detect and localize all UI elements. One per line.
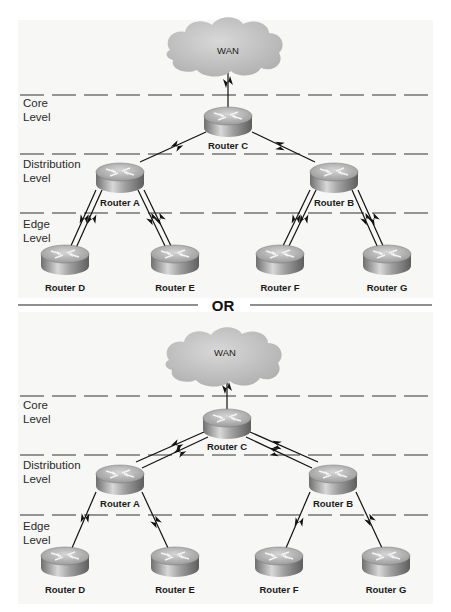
network-hierarchy-diagram: CoreLevel DistributionLevel EdgeLevel (0, 0, 451, 612)
router-b-icon (310, 163, 358, 193)
wan-cloud: WAN (167, 17, 283, 76)
level-label-edge: EdgeLevel (23, 218, 51, 244)
router-d-label: Router D (45, 282, 85, 293)
level-label-distribution: DistributionLevel (23, 459, 81, 485)
router-e-label: Router E (155, 282, 195, 293)
or-separator: OR (18, 297, 432, 314)
router-b-label: Router B (314, 197, 354, 208)
router-b-label: Router B (313, 498, 353, 509)
router-g-icon (363, 245, 411, 275)
router-e-icon (151, 245, 199, 275)
router-d-icon (41, 245, 89, 275)
router-d-label: Router D (45, 584, 85, 595)
router-g-icon (362, 547, 410, 577)
wan-label: WAN (214, 347, 236, 358)
router-c-icon (204, 107, 252, 137)
router-f-label: Router F (260, 282, 299, 293)
router-c-label: Router C (208, 140, 248, 151)
wan-cloud: WAN (166, 327, 282, 386)
level-label-distribution: DistributionLevel (23, 158, 81, 184)
router-a-icon (96, 465, 144, 495)
router-a-label: Router A (100, 197, 140, 208)
level-label-core: CoreLevel (23, 399, 51, 425)
router-g-label: Router G (367, 282, 408, 293)
router-c-label: Router C (207, 441, 247, 452)
wan-links (70, 72, 384, 248)
wan-label: WAN (217, 45, 239, 56)
router-e-label: Router E (155, 584, 195, 595)
diagram-top: CoreLevel DistributionLevel EdgeLevel (20, 17, 433, 293)
router-f-icon (255, 547, 303, 577)
wan-links (72, 367, 382, 548)
router-a-label: Router A (100, 498, 140, 509)
level-label-core: CoreLevel (23, 97, 51, 123)
router-a-icon (96, 163, 144, 193)
router-e-icon (151, 547, 199, 577)
router-f-label: Router F (259, 584, 298, 595)
router-c-icon (203, 409, 251, 439)
router-b-icon (309, 465, 357, 495)
level-label-edge: EdgeLevel (23, 520, 51, 546)
router-g-label: Router G (366, 584, 407, 595)
or-label: OR (212, 297, 235, 314)
diagram-bottom: CoreLevel DistributionLevel EdgeLevel (20, 327, 433, 595)
router-f-icon (256, 245, 304, 275)
router-d-icon (41, 547, 89, 577)
